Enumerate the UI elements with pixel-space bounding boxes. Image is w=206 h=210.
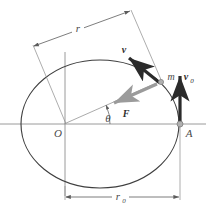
r0-label-mask — [112, 189, 129, 202]
force-vector — [114, 84, 157, 103]
mass-point-marker — [158, 79, 163, 84]
origin-label: O — [54, 127, 62, 139]
initial-velocity-label: v 0 — [184, 71, 194, 85]
velocity-label: v — [122, 44, 127, 55]
diagram-canvas: r O A m v F θ v 0 r 0 r r 0 — [0, 0, 206, 210]
apse-label: A — [185, 127, 193, 139]
orbit-diagram-figure: r O A m v F θ v 0 r 0 r r 0 — [0, 0, 206, 210]
svg-text:r: r — [116, 190, 121, 202]
svg-text:0: 0 — [122, 197, 126, 205]
angle-label: θ — [105, 112, 111, 124]
radius-r-label-top: r — [76, 22, 81, 34]
svg-text:0: 0 — [190, 77, 194, 85]
velocity-vector — [129, 58, 160, 83]
apse-point-marker — [177, 121, 183, 127]
force-label: F — [122, 108, 130, 119]
mass-label: m — [167, 71, 174, 82]
svg-text:v: v — [184, 71, 189, 82]
